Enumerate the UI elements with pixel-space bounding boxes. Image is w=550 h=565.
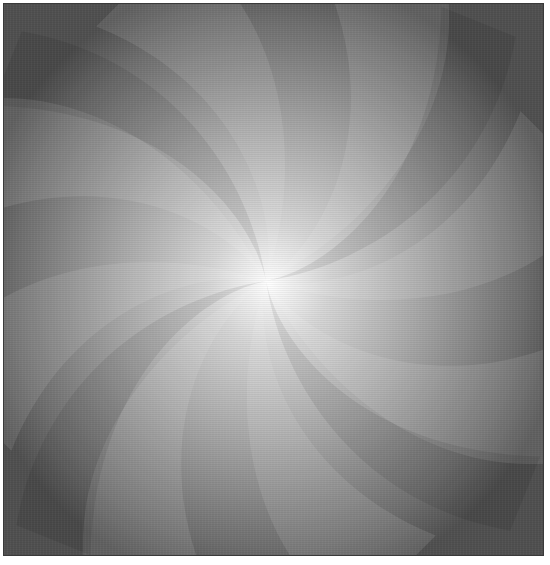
grain-texture <box>4 4 543 555</box>
swirl-image <box>3 3 544 556</box>
